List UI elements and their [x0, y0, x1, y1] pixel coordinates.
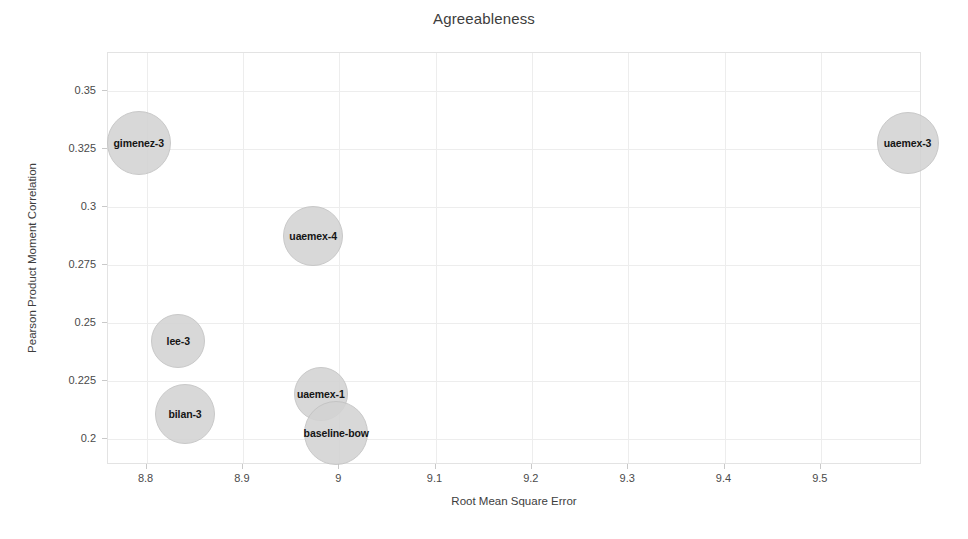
y-axis-tick-label: 0.275 — [68, 258, 96, 270]
gridline-horizontal — [108, 439, 920, 440]
gridline-horizontal — [108, 323, 920, 324]
gridline-vertical — [436, 53, 437, 463]
x-axis-tick-label: 8.9 — [234, 472, 249, 484]
bubble-label: bilan-3 — [168, 408, 201, 420]
gridline-horizontal — [108, 149, 920, 150]
gridline-vertical — [532, 53, 533, 463]
y-axis-tick-mark — [102, 380, 107, 381]
x-axis-tick-mark — [531, 464, 532, 469]
x-axis-tick-label: 9.3 — [620, 472, 635, 484]
y-axis-tick-mark — [102, 438, 107, 439]
y-axis-tick-label: 0.225 — [68, 374, 96, 386]
gridline-horizontal — [108, 91, 920, 92]
bubble-label: uaemex-4 — [289, 230, 337, 242]
y-axis-tick-mark — [102, 148, 107, 149]
x-axis-tick-label: 9.1 — [427, 472, 442, 484]
y-axis-tick-mark — [102, 322, 107, 323]
x-axis-tick-mark — [435, 464, 436, 469]
bubble-label: lee-3 — [167, 335, 190, 347]
plot-area — [107, 52, 921, 464]
bubble-label: gimenez-3 — [114, 137, 164, 149]
x-axis-tick-mark — [627, 464, 628, 469]
x-axis-tick-mark — [146, 464, 147, 469]
x-axis-tick-label: 9.2 — [523, 472, 538, 484]
y-axis-tick-label: 0.325 — [68, 142, 96, 154]
chart-canvas: Agreeableness Root Mean Square Error Pea… — [0, 0, 968, 539]
x-axis-tick-label: 8.8 — [138, 472, 153, 484]
y-axis-tick-label: 0.2 — [81, 432, 96, 444]
bubble-label: uaemex-3 — [884, 137, 932, 149]
x-axis-tick-label: 9.4 — [716, 472, 731, 484]
x-axis-tick-mark — [820, 464, 821, 469]
y-axis-tick-mark — [102, 206, 107, 207]
gridline-vertical — [628, 53, 629, 463]
page-title: Agreeableness — [0, 10, 968, 27]
y-axis-tick-label: 0.25 — [75, 316, 96, 328]
x-axis-tick-label: 9 — [335, 472, 341, 484]
x-axis-title: Root Mean Square Error — [107, 495, 921, 507]
x-axis-tick-mark — [724, 464, 725, 469]
gridline-horizontal — [108, 381, 920, 382]
gridline-vertical — [243, 53, 244, 463]
gridline-vertical — [821, 53, 822, 463]
gridline-horizontal — [108, 265, 920, 266]
gridline-horizontal — [108, 207, 920, 208]
y-axis-tick-label: 0.3 — [81, 200, 96, 212]
y-axis-tick-mark — [102, 264, 107, 265]
y-axis-tick-mark — [102, 90, 107, 91]
bubble-label: uaemex-1 — [297, 388, 345, 400]
x-axis-tick-mark — [242, 464, 243, 469]
x-axis-tick-label: 9.5 — [812, 472, 827, 484]
y-axis-title: Pearson Product Moment Correlation — [26, 52, 38, 464]
y-axis-tick-label: 0.35 — [75, 84, 96, 96]
bubble-label: baseline-bow — [304, 427, 369, 439]
gridline-vertical — [725, 53, 726, 463]
